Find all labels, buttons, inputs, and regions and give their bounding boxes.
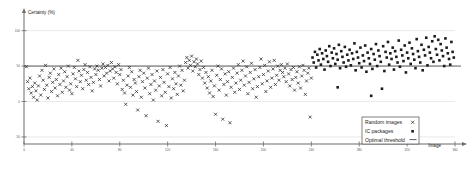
x-tick-label: 160 [213,148,218,152]
data-point [441,49,444,52]
data-point [256,85,259,88]
data-point [400,48,403,51]
data-point [60,67,63,70]
data-point [451,51,454,54]
data-point [394,50,397,53]
data-point [406,51,409,54]
data-point [262,73,265,76]
legend-marker-square [411,130,414,133]
data-point [27,87,30,90]
data-point [125,84,128,87]
data-point [97,69,100,72]
legend-label-optimal-threshold: Optimal threshold [365,137,405,143]
data-point [445,46,448,49]
legend-label-random-images: Random images [365,119,403,125]
data-point [348,48,351,51]
data-point [78,70,81,73]
data-point [401,54,404,57]
data-point [222,83,225,86]
data-point [127,74,130,77]
data-point [182,89,185,92]
data-point [268,60,271,63]
data-point [359,46,362,49]
data-point [439,43,442,46]
data-point [429,51,432,54]
data-point [40,69,43,72]
data-point [273,59,276,62]
data-point [197,73,200,76]
data-point [136,108,139,111]
data-point [87,83,90,86]
data-point [31,85,34,88]
data-point [36,99,39,102]
data-point [28,77,31,80]
data-point [322,58,325,61]
data-point [306,72,309,75]
data-point [230,86,233,89]
data-point [115,71,118,74]
data-point [172,87,175,90]
data-point [98,78,101,81]
data-point [187,67,190,70]
data-point [423,48,426,51]
data-point [449,63,452,66]
data-point [161,68,164,71]
data-point [323,68,326,71]
data-point [418,56,421,59]
data-point [191,70,194,73]
data-point [70,92,73,95]
data-point [195,57,198,60]
data-point [283,67,286,70]
data-point [252,77,255,80]
data-point [112,77,115,80]
data-point [433,35,436,38]
data-point [119,68,122,71]
data-point [369,63,372,66]
x-tick-label: 0 [23,148,25,152]
data-point [403,44,406,47]
data-point [142,72,145,75]
data-point [382,45,385,48]
x-axis-title: Image [428,143,441,148]
data-point [438,59,441,62]
data-point [424,54,427,57]
data-point [421,69,424,72]
data-point [129,86,132,89]
data-point [177,74,180,77]
data-point [225,94,228,97]
data-point [72,72,75,75]
x-tick-labels: 04080120160200240280320360 [23,148,458,152]
data-point [193,60,196,63]
data-point [50,90,53,93]
data-point [94,73,97,76]
data-point [368,57,371,60]
data-point [66,75,69,78]
data-point [414,67,417,70]
y-tick-label: 0 [18,100,20,104]
data-point [341,56,344,59]
data-point [201,77,204,80]
data-point [81,87,84,90]
data-point [390,58,393,61]
y-axis-title: Certainty (%) [28,10,55,15]
data-point [450,41,453,44]
data-point [363,60,366,63]
data-point [152,99,155,102]
data-point [170,96,173,99]
data-point [160,94,163,97]
data-point [30,91,33,94]
data-point [43,88,46,91]
data-point [420,44,423,47]
data-point [37,84,40,87]
data-point [140,96,143,99]
data-point [320,63,323,66]
data-point [427,46,430,49]
data-point [395,56,398,59]
data-point [173,71,176,74]
data-point [218,89,221,92]
data-point [100,67,103,70]
data-point [184,61,187,64]
x-tick-label: 40 [70,148,74,152]
data-point [269,86,272,89]
data-point [293,89,296,92]
